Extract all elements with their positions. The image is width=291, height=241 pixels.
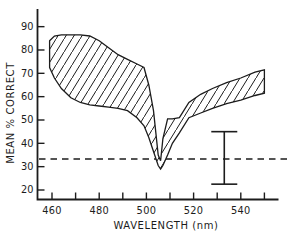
y-tick-label: 90 [21,21,33,32]
x-tick-label: 460 [42,205,62,216]
error-bar [211,132,237,185]
y-tick-label: 30 [21,161,33,172]
y-tick-label: 50 [21,114,33,125]
chart-figure: 2030405060708090460480500520540 MEAN % C… [0,0,291,241]
data-band [50,35,265,169]
x-tick-label: 500 [137,205,157,216]
y-axis-title: MEAN % CORRECT [5,62,16,164]
x-axis-title: WAVELENGTH (nm) [53,220,279,231]
x-tick-label: 520 [184,205,204,216]
y-tick-label: 40 [21,138,33,149]
y-tick-label: 70 [21,68,33,79]
y-tick-label: 60 [21,91,33,102]
chart-canvas: 2030405060708090460480500520540 [0,0,291,241]
y-tick-label: 80 [21,44,33,55]
y-tick-label: 20 [21,184,33,195]
x-tick-label: 480 [89,205,109,216]
x-tick-label: 540 [231,205,251,216]
